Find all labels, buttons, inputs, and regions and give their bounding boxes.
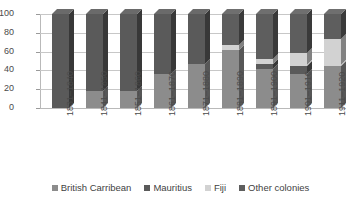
y-axis-tick-label: 0 xyxy=(0,103,14,112)
x-axis-category-label: 1861–1870 xyxy=(167,64,177,116)
bar-segment-side-face xyxy=(273,9,278,59)
x-axis-category-label: 1901–1910 xyxy=(303,64,313,116)
x-axis-category-label: 1841–1850 xyxy=(99,64,109,116)
bar-segment-side-face xyxy=(341,9,346,39)
x-axis-category-label: 1831–1840 xyxy=(65,64,75,116)
plot-area xyxy=(40,14,345,108)
y-axis-tick-label: 100 xyxy=(0,9,14,18)
chart-legend: British CarribeanMauritiusFijiOther colo… xyxy=(0,182,361,193)
legend-item[interactable]: British Carribean xyxy=(52,182,132,193)
legend-swatch-icon xyxy=(205,185,211,191)
legend-label: British Carribean xyxy=(61,182,132,193)
x-axis-category-label: 1881–1890 xyxy=(235,64,245,116)
x-axis-category-label: 1911–1920 xyxy=(337,64,347,116)
legend-swatch-icon xyxy=(144,185,150,191)
bar-segment-side-face xyxy=(307,9,312,53)
bar-segment-side-face xyxy=(239,9,244,45)
bar-segment xyxy=(222,14,239,45)
legend-label: Mauritius xyxy=(153,182,192,193)
bar-segment xyxy=(324,14,341,39)
bar-segment xyxy=(188,14,205,64)
bar-segment xyxy=(256,14,273,59)
x-axis-category-label: 1871–1880 xyxy=(201,64,211,116)
legend-label: Other colonies xyxy=(248,182,309,193)
legend-item[interactable]: Other colonies xyxy=(239,182,309,193)
bar-segment xyxy=(290,14,307,53)
legend-label: Fiji xyxy=(214,182,226,193)
bar-segment-side-face xyxy=(341,34,346,65)
y-axis-tick-label: 60 xyxy=(0,47,14,56)
x-axis-category-label: 1891–1900 xyxy=(269,64,279,116)
bar-segment-side-face xyxy=(205,9,210,64)
bar-segment xyxy=(324,39,341,65)
y-axis-tick-label: 40 xyxy=(0,65,14,74)
legend-swatch-icon xyxy=(239,185,245,191)
y-axis-tick-label: 20 xyxy=(0,84,14,93)
legend-item[interactable]: Mauritius xyxy=(144,182,192,193)
bar-segment xyxy=(222,45,239,50)
legend-item[interactable]: Fiji xyxy=(205,182,226,193)
y-axis-tick-label: 80 xyxy=(0,28,14,37)
x-axis-category-label: 1851–1860 xyxy=(133,64,143,116)
chart-container: 020406080100 1831–18401841–18501851–1860… xyxy=(0,0,361,199)
legend-swatch-icon xyxy=(52,185,58,191)
